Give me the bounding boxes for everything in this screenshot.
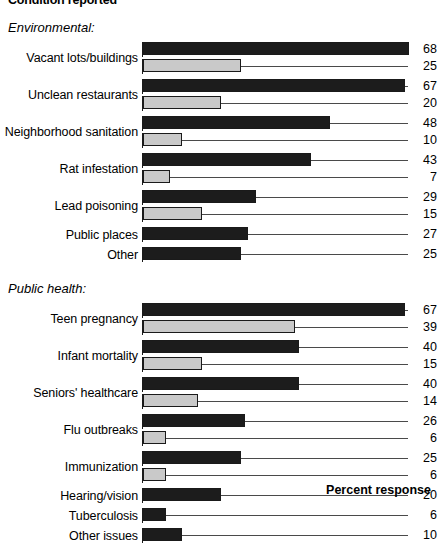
bar <box>143 133 182 146</box>
leader-line <box>299 384 408 385</box>
bar-group: Rat infestation437 <box>0 153 439 185</box>
leader-line <box>405 86 408 87</box>
bar-row: 27 <box>0 227 439 242</box>
bar-row: 29 <box>0 190 439 205</box>
bar <box>143 377 299 390</box>
bar-value-label: 67 <box>411 79 437 93</box>
bar-row: 10 <box>0 133 439 148</box>
bar-group: Infant mortality4015 <box>0 340 439 372</box>
bar <box>143 320 295 333</box>
leader-line <box>248 234 408 235</box>
bar-value-label: 39 <box>411 320 437 334</box>
bar-row: 7 <box>0 170 439 185</box>
bar-value-label: 67 <box>411 303 437 317</box>
bar-group: Flu outbreaks266 <box>0 414 439 446</box>
bar-group: Teen pregnancy6739 <box>0 303 439 335</box>
leader-line <box>202 364 408 365</box>
leader-line <box>202 214 408 215</box>
bar-group: Seniors' healthcare4014 <box>0 377 439 409</box>
leader-line <box>198 401 408 402</box>
bar-value-label: 6 <box>411 508 437 522</box>
bar-row: 40 <box>0 377 439 392</box>
bar <box>143 170 170 183</box>
leader-line <box>405 310 408 311</box>
bar-value-label: 29 <box>411 190 437 204</box>
leader-line <box>182 140 408 141</box>
bar-row: 67 <box>0 303 439 318</box>
bar-value-label: 25 <box>411 451 437 465</box>
bar-group: Public places27 <box>0 227 439 242</box>
bar-row: 25 <box>0 59 439 74</box>
bar-value-label: 6 <box>411 431 437 445</box>
section-heading: Public health: <box>0 279 439 298</box>
bar-group: Other issues10 <box>0 528 439 543</box>
bar <box>143 303 405 316</box>
bar-group: Lead poisoning2915 <box>0 190 439 222</box>
bar <box>143 451 241 464</box>
leader-line <box>295 327 408 328</box>
bar-group: Tuberculosis6 <box>0 508 439 523</box>
leader-line <box>245 421 408 422</box>
bar <box>143 414 245 427</box>
bar-value-label: 40 <box>411 340 437 354</box>
bar-row: 15 <box>0 357 439 372</box>
bar-row: 48 <box>0 116 439 131</box>
bar-row: 26 <box>0 414 439 429</box>
bar <box>143 207 202 220</box>
bar-group: Immunization256 <box>0 451 439 483</box>
leader-line <box>241 254 408 255</box>
bar-value-label: 43 <box>411 153 437 167</box>
bar-value-label: 10 <box>411 528 437 542</box>
bar-group: Other25 <box>0 247 439 262</box>
x-axis-label: Percent response <box>326 483 431 497</box>
bar-row: 14 <box>0 394 439 409</box>
bar <box>143 431 166 444</box>
bar-row: 10 <box>0 528 439 543</box>
bar-value-label: 7 <box>411 170 437 184</box>
bar-value-label: 26 <box>411 414 437 428</box>
leader-line <box>311 160 408 161</box>
bar-value-label: 15 <box>411 357 437 371</box>
bar <box>143 116 330 129</box>
bar <box>143 42 409 55</box>
chart-sections: Environmental:Vacant lots/buildings6825U… <box>0 0 439 543</box>
leader-line <box>256 197 408 198</box>
bar-value-label: 48 <box>411 116 437 130</box>
leader-line <box>241 458 408 459</box>
bar-value-label: 40 <box>411 377 437 391</box>
bar-value-label: 27 <box>411 227 437 241</box>
leader-line <box>182 535 408 536</box>
bar <box>143 394 198 407</box>
bar <box>143 468 166 481</box>
leader-line <box>170 177 408 178</box>
bar-value-label: 14 <box>411 394 437 408</box>
bar-group: Vacant lots/buildings6825 <box>0 42 439 74</box>
bar <box>143 340 299 353</box>
bar <box>143 79 405 92</box>
bar <box>143 488 221 501</box>
bar-value-label: 10 <box>411 133 437 147</box>
bar-row: 6 <box>0 468 439 483</box>
bar-value-label: 25 <box>411 247 437 261</box>
bar-row: 15 <box>0 207 439 222</box>
bar <box>143 357 202 370</box>
bar-row: 20 <box>0 96 439 111</box>
bar <box>143 153 311 166</box>
bar-group: Neighborhood sanitation4810 <box>0 116 439 148</box>
leader-line <box>166 515 408 516</box>
bar-value-label: 20 <box>411 96 437 110</box>
leader-line <box>166 438 408 439</box>
bar <box>143 247 241 260</box>
leader-line <box>166 475 408 476</box>
bar <box>143 508 166 521</box>
section-heading: Environmental: <box>0 18 439 37</box>
bar-row: 39 <box>0 320 439 335</box>
bar-value-label: 6 <box>411 468 437 482</box>
leader-line <box>299 347 408 348</box>
leader-line <box>330 123 408 124</box>
bar-value-label: 68 <box>411 42 437 56</box>
bar-row: 68 <box>0 42 439 57</box>
leader-line <box>221 103 408 104</box>
bar-row: 6 <box>0 508 439 523</box>
